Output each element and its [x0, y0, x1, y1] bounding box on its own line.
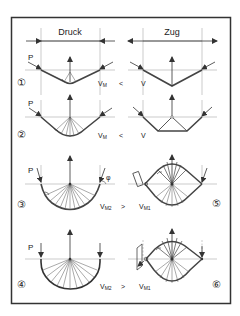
row-3-zug-figure [128, 155, 217, 207]
row-3-druck-figure: P φ [25, 156, 115, 210]
svg-text:P: P [28, 99, 33, 108]
row-4-zug-figure [128, 229, 217, 283]
row-2-right-value: V [141, 132, 146, 139]
row-2-number: ② [17, 129, 26, 140]
svg-text:P: P [28, 166, 33, 175]
row-4-relation: > [121, 283, 125, 290]
row-2-left-value: VM [98, 132, 107, 140]
row-1-left-value: VM [98, 80, 107, 88]
row-4-right-number: ⑥ [212, 279, 221, 290]
row-2-zug-figure [128, 95, 217, 131]
row-3-number: ③ [17, 199, 26, 210]
row-2-druck-figure: P [25, 95, 115, 137]
force-label-p: P [28, 53, 33, 62]
header-druck: Druck [58, 27, 82, 37]
row-1-relation: < [119, 80, 123, 87]
diagram-canvas: Druck Zug P ① VM < V P [0, 0, 240, 316]
svg-text:P: P [28, 243, 33, 252]
row-1-number: ① [17, 77, 26, 88]
row-3-left-value: VM2 [100, 203, 112, 211]
row-4-druck-figure: P [25, 230, 115, 289]
diagram-frame [12, 18, 231, 304]
row-4-right-value: VM1 [139, 283, 151, 291]
row-4-number: ④ [17, 279, 26, 290]
row-1-right-value: V [141, 80, 146, 87]
row-3-relation: > [121, 203, 125, 210]
row-3-right-value: VM1 [139, 203, 151, 211]
angle-label-phi: φ [106, 174, 111, 182]
row-4-left-value: VM2 [100, 283, 112, 291]
row-3-right-number: ⑤ [212, 198, 221, 209]
header-zug: Zug [164, 27, 180, 37]
row-1-druck-figure: P [25, 53, 115, 84]
row-2-relation: < [119, 132, 123, 139]
